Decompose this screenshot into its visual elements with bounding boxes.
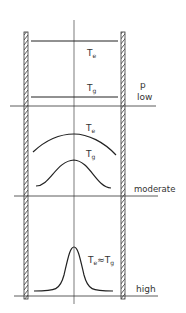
low-te-label: Te bbox=[86, 48, 97, 59]
pressure-label: p bbox=[140, 80, 146, 90]
moderate-regime-label: moderate bbox=[134, 184, 175, 194]
moderate-tg-label: Tg bbox=[85, 149, 96, 161]
high-regime-label: high bbox=[136, 284, 156, 294]
plasma-temperature-diagram: Te Tg p low Te Tg moderate Te≈Tg high bbox=[0, 0, 186, 313]
moderate-tg-curve bbox=[36, 160, 111, 188]
high-combined-label: Te≈Tg bbox=[87, 255, 114, 267]
moderate-te-curve bbox=[33, 134, 116, 155]
left-wall bbox=[24, 32, 28, 299]
moderate-te-label: Te bbox=[85, 123, 96, 134]
high-combined-curve bbox=[34, 247, 113, 291]
right-wall bbox=[121, 32, 125, 299]
low-tg-label: Tg bbox=[86, 83, 97, 95]
low-regime-label: low bbox=[137, 92, 152, 102]
